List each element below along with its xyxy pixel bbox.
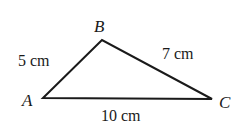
- vertex-label-c: C: [219, 93, 231, 112]
- side-label-bc: 7 cm: [162, 45, 194, 62]
- vertex-label-a: A: [21, 91, 33, 110]
- vertex-label-b: B: [94, 17, 105, 36]
- triangle-diagram: A B C 5 cm 7 cm 10 cm: [0, 0, 238, 126]
- side-label-ab: 5 cm: [18, 52, 50, 69]
- side-label-ac: 10 cm: [101, 107, 141, 124]
